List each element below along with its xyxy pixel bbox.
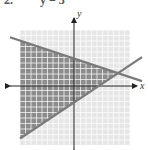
y-axis-label: y: [76, 8, 82, 19]
x-axis-label: x: [139, 80, 145, 91]
inequality-graph: x y: [0, 0, 148, 150]
